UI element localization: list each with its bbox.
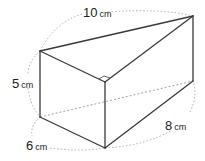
label-8cm-value: 8 — [165, 118, 172, 133]
label-5cm-value: 5 — [12, 76, 19, 91]
guide-arc-10cm — [40, 11, 193, 51]
label-10cm: 10cm — [83, 4, 111, 20]
label-5cm: 5cm — [12, 75, 33, 91]
right-angle-marker — [99, 76, 110, 79]
label-8cm-unit: cm — [174, 122, 186, 132]
label-6cm-value: 6 — [26, 138, 33, 153]
label-10cm-unit: cm — [99, 9, 111, 19]
edge-DE — [40, 117, 105, 148]
label-5cm-unit: cm — [21, 80, 33, 90]
label-8cm: 8cm — [165, 117, 186, 133]
label-6cm-unit: cm — [35, 142, 47, 152]
label-6cm: 6cm — [26, 137, 47, 153]
edge-AC — [40, 51, 105, 82]
label-10cm-value: 10 — [83, 5, 97, 20]
